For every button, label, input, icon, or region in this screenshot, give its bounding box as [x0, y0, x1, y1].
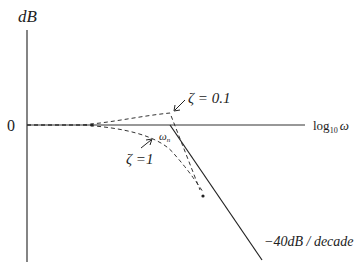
x-axis-label: log10ω [313, 118, 349, 135]
merge-point [90, 123, 93, 126]
slope-label: −40dB / decade [264, 234, 354, 249]
y-axis-label: dB [18, 7, 38, 26]
x-axis-log: log [313, 118, 330, 133]
bode-plot: dB 0 log10ω ωn ζ = 0.1 ζ =1 −40dB / deca… [0, 0, 364, 270]
zeta-01-label: ζ = 0.1 [188, 90, 230, 106]
asymptote-line [170, 125, 262, 260]
corner-frequency-label: ωn [159, 130, 171, 144]
zeta-1-arrow [141, 140, 151, 148]
x-axis-var: ω [340, 118, 349, 133]
zeta-1-label: ζ =1 [126, 151, 153, 167]
x-axis-sub: 10 [330, 126, 338, 135]
merge-point [201, 194, 204, 197]
zero-tick: 0 [7, 117, 15, 134]
zeta-01-arrow [175, 100, 185, 110]
